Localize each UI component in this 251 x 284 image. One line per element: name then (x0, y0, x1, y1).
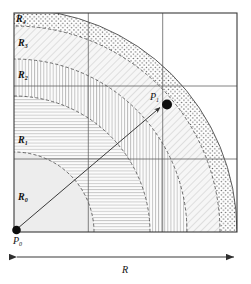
region-label-R3: R3 (18, 38, 28, 48)
annular-regions-diagram (0, 0, 251, 284)
point-label-P0-sub: 0 (19, 241, 22, 247)
region-label-R2: R2 (18, 70, 28, 80)
figure-container: R4 R3 R2 R1 R0 P0 P1 R (0, 0, 251, 284)
point-label-P1-sub: 1 (156, 97, 159, 103)
point-p0-marker (12, 226, 21, 235)
point-label-P0: P0 (13, 236, 22, 246)
region-label-R0: R0 (18, 192, 28, 202)
point-label-P1: P1 (150, 92, 159, 102)
point-p1-marker (162, 100, 172, 110)
region-label-R1-text: R (18, 134, 25, 145)
dimension-label-R: R (122, 265, 128, 275)
region-label-R0-sub: 0 (25, 197, 28, 203)
region-label-R2-text: R (18, 69, 25, 80)
dimension-label-R-text: R (122, 264, 128, 275)
region-label-R3-text: R (18, 37, 25, 48)
region-label-R1: R1 (18, 135, 28, 145)
region-label-R4-text: R (16, 13, 23, 24)
region-label-R2-sub: 2 (25, 75, 28, 81)
region-label-R3-sub: 3 (25, 43, 28, 49)
region-label-R4-sub: 4 (23, 19, 26, 25)
region-label-R1-sub: 1 (25, 140, 28, 146)
region-label-R4: R4 (16, 14, 26, 24)
region-label-R0-text: R (18, 191, 25, 202)
